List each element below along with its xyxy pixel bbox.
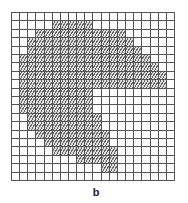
grid-cell	[125, 172, 133, 180]
grid-cell-hatched	[125, 37, 133, 45]
grid-cell	[117, 172, 125, 180]
grid-cell	[92, 96, 100, 104]
grid-cell	[19, 163, 27, 171]
grid-cell	[158, 96, 166, 104]
grid-cell	[76, 12, 84, 20]
grid-cell-hatched	[52, 46, 60, 54]
grid-cell	[141, 138, 149, 146]
grid-cell	[133, 121, 141, 129]
grid-cell	[141, 155, 149, 163]
grid-cell	[141, 37, 149, 45]
grid-cell	[158, 138, 166, 146]
grid-cell-hatched	[68, 46, 76, 54]
grid-cell-hatched	[35, 88, 43, 96]
grid-cell-hatched	[101, 46, 109, 54]
grid-cell	[166, 163, 174, 171]
grid-cell-hatched	[117, 37, 125, 45]
grid-cell	[166, 172, 174, 180]
grid-cell	[158, 29, 166, 37]
grid-cell-hatched	[76, 121, 84, 129]
grid-cell	[52, 163, 60, 171]
grid-cell-hatched	[109, 79, 117, 87]
grid-cell-hatched	[44, 113, 52, 121]
grid-cell-hatched	[133, 79, 141, 87]
grid-cell	[158, 172, 166, 180]
grid-cell	[109, 12, 117, 20]
grid-cell-hatched	[76, 54, 84, 62]
grid-cell-hatched	[125, 62, 133, 70]
grid-cell	[11, 54, 19, 62]
grid-cell	[109, 138, 117, 146]
grid-cell-hatched	[150, 62, 158, 70]
grid-cell-hatched	[117, 54, 125, 62]
grid-cell	[166, 88, 174, 96]
grid-cell	[27, 138, 35, 146]
grid-cell	[166, 79, 174, 87]
grid-cell	[158, 130, 166, 138]
grid-cell-hatched	[52, 96, 60, 104]
grid-cell	[109, 130, 117, 138]
grid-cell	[150, 138, 158, 146]
grid-cell-hatched	[68, 71, 76, 79]
grid-cell	[150, 20, 158, 28]
grid-cell-hatched	[76, 79, 84, 87]
grid-cell-hatched	[19, 79, 27, 87]
grid-cell	[101, 96, 109, 104]
grid-cell	[133, 163, 141, 171]
grid-cell-hatched	[60, 88, 68, 96]
grid-cell	[125, 130, 133, 138]
grid-cell	[11, 29, 19, 37]
grid-cell-hatched	[27, 79, 35, 87]
grid-cell	[44, 12, 52, 20]
grid-cell	[35, 12, 43, 20]
grid-cell-hatched	[68, 130, 76, 138]
grid-cell	[141, 130, 149, 138]
grid-cell-hatched	[68, 37, 76, 45]
grid-cell-hatched	[52, 20, 60, 28]
grid-cell	[84, 12, 92, 20]
grid-cell-hatched	[35, 62, 43, 70]
grid-cell-hatched	[84, 79, 92, 87]
grid-cell-hatched	[19, 54, 27, 62]
grid-cell-hatched	[27, 62, 35, 70]
grid-cell-hatched	[76, 37, 84, 45]
grid-cell	[11, 46, 19, 54]
grid-cell-hatched	[101, 79, 109, 87]
grid-cell	[117, 121, 125, 129]
grid-cell-hatched	[84, 155, 92, 163]
grid-cell	[11, 104, 19, 112]
grid-cell-hatched	[44, 79, 52, 87]
grid-cell-hatched	[109, 163, 117, 171]
grid-cell	[117, 155, 125, 163]
grid-cell-hatched	[84, 96, 92, 104]
grid-cell-hatched	[60, 20, 68, 28]
grid-cell-hatched	[19, 104, 27, 112]
grid-cell	[11, 121, 19, 129]
grid-cell-hatched	[35, 96, 43, 104]
grid-cell	[101, 104, 109, 112]
grid-cell	[158, 121, 166, 129]
grid-cell	[150, 12, 158, 20]
grid-cell-hatched	[35, 130, 43, 138]
grid-cell	[133, 104, 141, 112]
grid-cell	[158, 146, 166, 154]
grid-cell-hatched	[35, 46, 43, 54]
grid-cell-hatched	[92, 54, 100, 62]
grid-cell	[125, 88, 133, 96]
grid-cell-hatched	[109, 54, 117, 62]
grid-cell-hatched	[52, 62, 60, 70]
grid-cell-hatched	[84, 54, 92, 62]
grid-cell	[166, 96, 174, 104]
grid-cell-hatched	[92, 62, 100, 70]
grid-cell-hatched	[68, 104, 76, 112]
grid-cell-hatched	[35, 113, 43, 121]
grid-cell	[166, 155, 174, 163]
grid-cell	[117, 113, 125, 121]
grid-cell	[92, 163, 100, 171]
grid-cell-hatched	[84, 62, 92, 70]
grid-cell-hatched	[44, 37, 52, 45]
grid-cell-hatched	[101, 146, 109, 154]
grid-cell-hatched	[52, 138, 60, 146]
grid-cell	[141, 163, 149, 171]
grid-cell-hatched	[109, 71, 117, 79]
